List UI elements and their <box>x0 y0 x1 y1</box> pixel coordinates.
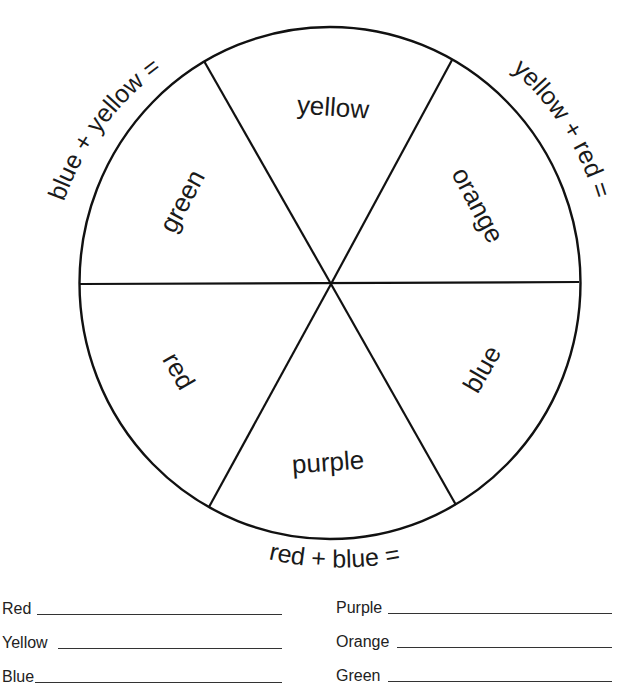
answer-row-yellow: Yellow <box>2 628 282 652</box>
segment-label-purple: purple <box>291 445 365 480</box>
answer-field-blue[interactable] <box>35 682 282 683</box>
answer-label-yellow: Yellow <box>2 634 48 652</box>
color-wheel: yellow orange blue purple red green blue… <box>0 0 636 580</box>
answer-label-purple: Purple <box>336 599 382 617</box>
equation-red-blue: red + blue = <box>267 537 402 573</box>
answer-field-purple[interactable] <box>388 613 612 614</box>
answer-label-red: Red <box>2 600 31 618</box>
answer-row-green: Green <box>336 661 612 685</box>
answer-field-yellow[interactable] <box>58 648 282 649</box>
answer-field-orange[interactable] <box>397 647 612 648</box>
segment-label-yellow: yellow <box>296 90 370 125</box>
answer-row-purple: Purple <box>336 593 612 617</box>
answer-row-blue: Blue <box>2 662 282 686</box>
answer-label-blue: Blue <box>2 668 34 686</box>
answer-field-red[interactable] <box>37 614 282 615</box>
answer-label-orange: Orange <box>336 633 389 651</box>
answer-row-red: Red <box>2 594 282 618</box>
answer-label-green: Green <box>336 667 380 685</box>
answer-row-orange: Orange <box>336 627 612 651</box>
answer-field-green[interactable] <box>388 681 612 682</box>
